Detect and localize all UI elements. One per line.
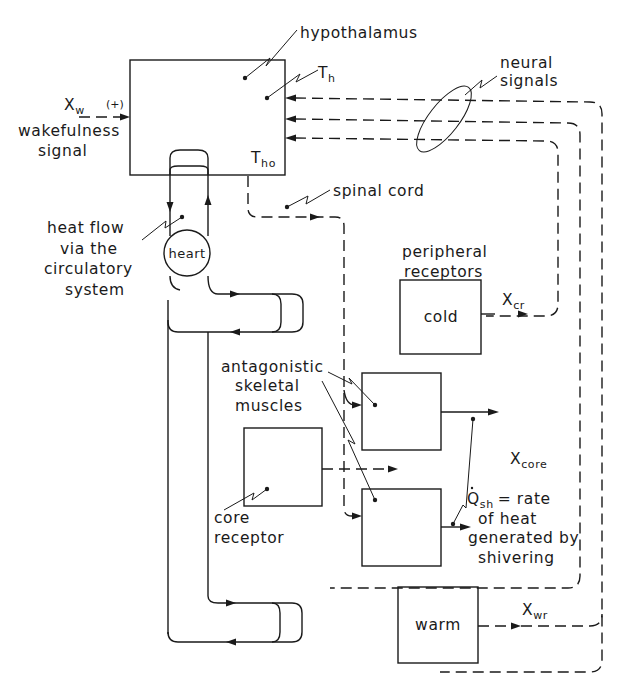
wakefulness-input: Xw (+) wakefulness signal bbox=[18, 96, 130, 160]
arrow-icon bbox=[167, 202, 174, 212]
spinal-cord: spinal cord bbox=[248, 176, 424, 520]
arrow-icon bbox=[488, 409, 499, 416]
heart-label: heart bbox=[168, 246, 205, 261]
arrow-icon bbox=[352, 513, 362, 520]
q-sh-label: Qsh= rate bbox=[467, 490, 551, 511]
cold-receptor: peripheral receptors cold Xcr bbox=[400, 243, 528, 354]
t-h-label: Th bbox=[317, 64, 336, 85]
arrow-icon bbox=[226, 639, 236, 646]
q-sh-label-3: generated by bbox=[468, 529, 579, 547]
heat-flow-label-4: system bbox=[65, 281, 125, 299]
warm-receptor: warm Xwr bbox=[398, 587, 602, 663]
cold-label: cold bbox=[424, 308, 459, 326]
arrow-icon bbox=[205, 195, 212, 205]
heat-flow-label-1: heat flow bbox=[47, 219, 124, 237]
neural-label-1: neural bbox=[500, 54, 553, 72]
core-receptor-block bbox=[244, 428, 322, 506]
hypothalamus-label: hypothalamus bbox=[300, 24, 418, 42]
peripheral-label-1: peripheral bbox=[402, 243, 487, 261]
wakefulness-label-1: wakefulness bbox=[18, 122, 120, 140]
x-core-label: Xcore bbox=[510, 450, 547, 471]
shivering-heat-annotation: Qsh= rate of heat generated by shivering bbox=[451, 417, 579, 567]
muscles-label-2: skeletal bbox=[235, 377, 300, 395]
x-cr-label: Xcr bbox=[502, 291, 525, 312]
neural-signals: neural signals bbox=[285, 54, 602, 672]
muscles-label-3: muscles bbox=[235, 397, 303, 415]
core-receptor-label-1: core bbox=[214, 509, 250, 527]
arrow-icon bbox=[120, 114, 130, 121]
arrow-icon bbox=[230, 291, 240, 298]
q-sh-label-4: shivering bbox=[478, 549, 555, 567]
arrow-icon bbox=[511, 623, 521, 630]
arrow-icon bbox=[388, 466, 398, 473]
core-receptor-label-2: receptor bbox=[214, 529, 284, 547]
heat-flow-label-2: via the bbox=[60, 240, 118, 258]
arrow-icon bbox=[230, 329, 240, 336]
arrow-icon bbox=[285, 95, 296, 102]
spinal-cord-label: spinal cord bbox=[333, 182, 424, 200]
q-sh-label-2: of heat bbox=[478, 510, 537, 528]
neural-label-2: signals bbox=[500, 72, 558, 90]
arrow-icon bbox=[352, 402, 362, 409]
wakefulness-label-2: signal bbox=[38, 142, 87, 160]
arrow-icon bbox=[285, 116, 296, 123]
arrow-icon bbox=[226, 600, 236, 607]
x-w-sign: (+) bbox=[106, 98, 124, 111]
arrow-icon bbox=[310, 214, 320, 221]
thermoregulation-diagram: hypothalamus Th Tho Xw (+) wakefulness s… bbox=[0, 0, 621, 686]
t-ho-label: Tho bbox=[250, 149, 276, 170]
arrow-icon bbox=[285, 135, 296, 142]
x-w-label: Xw bbox=[64, 96, 85, 117]
x-wr-label: Xwr bbox=[522, 601, 548, 622]
muscles-label-1: antagonistic bbox=[221, 358, 324, 376]
muscle-upper-block bbox=[362, 373, 441, 450]
heat-flow-label-3: circulatory bbox=[44, 260, 133, 278]
warm-label: warm bbox=[415, 616, 461, 634]
peripheral-label-2: receptors bbox=[404, 263, 483, 281]
